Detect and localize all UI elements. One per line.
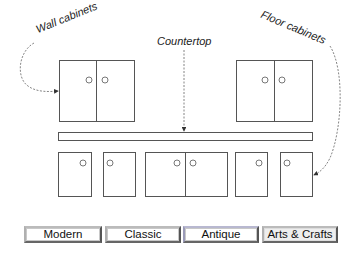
floor-cabinet-5 bbox=[281, 153, 313, 197]
floor-cabinet-2 bbox=[104, 153, 136, 197]
wall-cabinet-right bbox=[237, 61, 313, 122]
style-button-arts-crafts-label: Arts & Crafts bbox=[264, 228, 336, 241]
wall-cabinet-left bbox=[60, 61, 135, 122]
floor-cabinet-3 bbox=[146, 153, 228, 197]
floor-cabinet-4 bbox=[236, 153, 268, 197]
style-button-modern[interactable]: Modern bbox=[24, 226, 102, 243]
countertop bbox=[59, 133, 313, 141]
countertop-label: Countertop bbox=[157, 35, 211, 47]
style-button-antique-label: Antique bbox=[185, 228, 257, 241]
floor-cabinets bbox=[59, 153, 313, 197]
style-button-classic[interactable]: Classic bbox=[105, 226, 181, 243]
wall-cabinets-arrow bbox=[20, 43, 58, 91]
floor-cabinets-arrow bbox=[314, 46, 340, 175]
floor-cabinet-1 bbox=[59, 153, 92, 197]
style-button-classic-label: Classic bbox=[107, 228, 179, 241]
style-button-antique[interactable]: Antique bbox=[183, 226, 259, 243]
style-button-arts-crafts[interactable]: Arts & Crafts bbox=[262, 226, 338, 243]
style-button-modern-label: Modern bbox=[26, 228, 100, 241]
